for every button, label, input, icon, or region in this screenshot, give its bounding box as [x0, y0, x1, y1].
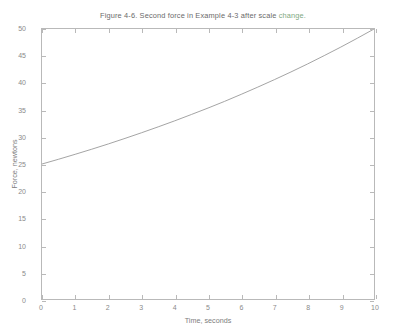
y-tick-label: 5: [0, 269, 26, 276]
x-tick-mark: [343, 295, 344, 299]
y-tick-mark: [42, 274, 46, 275]
x-tick-mark: [309, 29, 310, 33]
x-tick-mark: [142, 295, 143, 299]
y-tick-mark: [370, 138, 374, 139]
y-tick-label: 35: [0, 106, 26, 113]
y-tick-label: 0: [0, 297, 26, 304]
y-tick-mark: [42, 111, 46, 112]
y-tick-label: 20: [0, 188, 26, 195]
x-tick-mark: [42, 295, 43, 299]
y-tick-label: 45: [0, 52, 26, 59]
x-tick-mark: [276, 295, 277, 299]
y-tick-mark: [370, 192, 374, 193]
y-tick-mark: [370, 219, 374, 220]
y-tick-mark: [42, 56, 46, 57]
x-tick-label: 0: [29, 304, 53, 311]
plot-area: [41, 28, 375, 300]
x-tick-label: 2: [96, 304, 120, 311]
x-tick-label: 5: [196, 304, 220, 311]
y-tick-mark: [370, 274, 374, 275]
figure-canvas: Figure 4-6. Second force in Example 4-3 …: [0, 0, 406, 334]
y-tick-label: 40: [0, 79, 26, 86]
y-tick-label: 10: [0, 242, 26, 249]
y-tick-label: 15: [0, 215, 26, 222]
x-tick-label: 3: [129, 304, 153, 311]
y-tick-mark: [370, 165, 374, 166]
y-tick-mark: [370, 111, 374, 112]
x-tick-label: 7: [263, 304, 287, 311]
y-tick-mark: [42, 247, 46, 248]
x-tick-mark: [209, 295, 210, 299]
x-tick-mark: [109, 29, 110, 33]
x-tick-mark: [42, 29, 43, 33]
x-tick-mark: [343, 29, 344, 33]
y-tick-mark: [370, 29, 374, 30]
x-tick-mark: [142, 29, 143, 33]
x-tick-mark: [376, 295, 377, 299]
y-tick-mark: [42, 138, 46, 139]
x-tick-label: 8: [296, 304, 320, 311]
data-series-line: [42, 29, 374, 299]
x-tick-mark: [109, 295, 110, 299]
x-tick-mark: [75, 29, 76, 33]
y-tick-mark: [42, 192, 46, 193]
x-tick-mark: [309, 295, 310, 299]
y-tick-label: 25: [0, 161, 26, 168]
chart-title-accent: change.: [279, 11, 306, 20]
y-tick-mark: [42, 301, 46, 302]
y-tick-label: 30: [0, 133, 26, 140]
y-tick-mark: [42, 165, 46, 166]
chart-title: Figure 4-6. Second force in Example 4-3 …: [0, 11, 406, 20]
x-tick-label: 6: [229, 304, 253, 311]
x-tick-mark: [176, 295, 177, 299]
x-tick-mark: [276, 29, 277, 33]
chart-title-main: Figure 4-6. Second force in Example 4-3 …: [100, 11, 279, 20]
x-tick-mark: [242, 295, 243, 299]
y-tick-mark: [370, 83, 374, 84]
y-tick-mark: [370, 301, 374, 302]
y-tick-mark: [370, 247, 374, 248]
x-axis-title: Time, seconds: [41, 316, 375, 325]
x-tick-label: 1: [62, 304, 86, 311]
plot-inner: [42, 29, 374, 299]
y-tick-label: 50: [0, 25, 26, 32]
x-tick-mark: [242, 29, 243, 33]
y-tick-mark: [42, 219, 46, 220]
x-tick-label: 9: [330, 304, 354, 311]
x-tick-mark: [75, 295, 76, 299]
y-tick-mark: [42, 83, 46, 84]
x-tick-label: 4: [163, 304, 187, 311]
x-tick-mark: [376, 29, 377, 33]
x-tick-mark: [176, 29, 177, 33]
y-tick-mark: [370, 56, 374, 57]
x-tick-label: 10: [363, 304, 387, 311]
x-tick-mark: [209, 29, 210, 33]
